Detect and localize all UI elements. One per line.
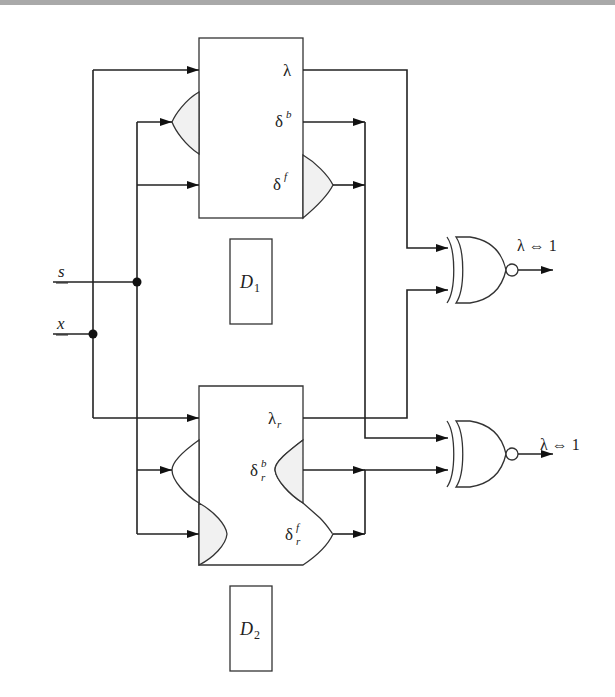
top-lambda-label: λ bbox=[283, 61, 292, 80]
xnor-gate-bottom bbox=[447, 421, 553, 487]
top-block bbox=[172, 38, 333, 218]
svg-text:b: b bbox=[261, 457, 267, 469]
xnor-bottom-output-label: λ ⇔ 1 bbox=[540, 436, 580, 453]
svg-text:r: r bbox=[296, 535, 301, 547]
svg-text:r: r bbox=[277, 418, 282, 430]
top-delta-b-label: δ bbox=[275, 112, 283, 131]
svg-text:1: 1 bbox=[254, 281, 260, 295]
bottom-delta-f-r-label: δ bbox=[285, 525, 293, 544]
junction-x bbox=[89, 330, 98, 339]
bottom-delta-b-r-label: δ bbox=[250, 461, 258, 480]
input-s-label: s bbox=[58, 262, 65, 281]
junction-s bbox=[133, 278, 142, 287]
svg-text:b: b bbox=[286, 108, 292, 120]
bottom-lambda-r-label: λ bbox=[268, 409, 277, 428]
xnor-top-output-label: λ ⇔ 1 bbox=[517, 237, 557, 254]
top-delta-f-label: δ bbox=[273, 175, 281, 194]
domain-d1-label: D bbox=[239, 272, 253, 292]
input-x-label: x bbox=[56, 314, 65, 333]
domain-d2-label: D bbox=[239, 619, 253, 639]
circuit-diagram: s x λ δ b δ f λ r δ b r δ f r D 1 D 2 λ … bbox=[0, 0, 615, 697]
svg-text:r: r bbox=[261, 471, 266, 483]
svg-text:2: 2 bbox=[254, 628, 260, 642]
